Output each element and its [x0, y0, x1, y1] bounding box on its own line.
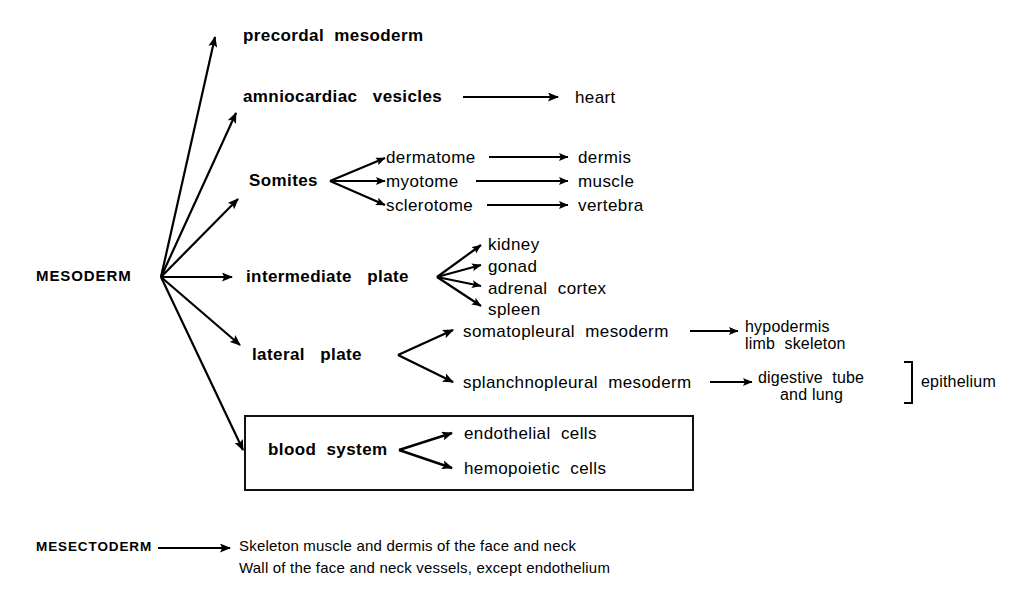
node-digestive-tube: digestive tube: [758, 369, 864, 387]
edge-lateral-somatopleural: [398, 330, 453, 355]
node-epithelium: epithelium: [921, 373, 996, 391]
node-hypodermis: hypodermis: [745, 318, 830, 336]
node-kidney: kidney: [488, 235, 540, 254]
node-lateral-plate: lateral plate: [252, 345, 362, 364]
node-mesectoderm: MESECTODERM: [36, 539, 152, 554]
edge-intermediate-gonad: [437, 265, 481, 277]
node-mesoderm: MESODERM: [36, 268, 132, 285]
edge-lateral-splanchnopleural: [398, 355, 453, 382]
edge-intermediate-adrenal: [437, 277, 481, 286]
edge-somites-dermatome: [330, 158, 385, 181]
node-somatopleural-mesoderm: somatopleural mesoderm: [463, 322, 669, 341]
mesectoderm-line-2: Wall of the face and neck vessels, excep…: [239, 560, 610, 577]
edge-mesoderm-lateral: [161, 277, 240, 345]
node-dermis: dermis: [578, 148, 631, 167]
somites-fan: [330, 158, 385, 205]
edge-mesoderm-amniocardiac: [161, 113, 236, 277]
node-muscle: muscle: [578, 172, 634, 191]
diagram-canvas: MESODERM MESECTODERM precordal mesoderm …: [0, 0, 1019, 614]
node-vertebra: vertebra: [578, 196, 644, 215]
node-adrenal-cortex: adrenal cortex: [488, 279, 606, 298]
edge-mesoderm-precordal: [161, 37, 215, 277]
node-precordal-mesoderm: precordal mesoderm: [243, 26, 424, 45]
node-heart: heart: [575, 88, 616, 107]
edge-somites-sclerotome: [330, 181, 385, 205]
node-splanchnopleural-mesoderm: splanchnopleural mesoderm: [463, 373, 692, 392]
node-sclerotome: sclerotome: [386, 196, 473, 215]
node-amniocardiac-vesicles: amniocardiac vesicles: [243, 87, 442, 106]
somite-target-edges: [476, 157, 568, 205]
node-somites: Somites: [249, 171, 318, 190]
epithelium-bracket: [904, 362, 912, 403]
node-myotome: myotome: [386, 172, 459, 191]
node-hemopoietic-cells: hemopoietic cells: [464, 459, 606, 478]
mesectoderm-line-1: Skeleton muscle and dermis of the face a…: [239, 538, 576, 555]
mesoderm-fan: [161, 37, 243, 450]
node-limb-skeleton: limb skeleton: [745, 335, 846, 353]
node-intermediate-plate: intermediate plate: [246, 267, 409, 286]
node-and-lung: and lung: [780, 386, 843, 404]
edge-mesoderm-blood: [161, 277, 243, 450]
edge-mesoderm-somites: [161, 199, 238, 277]
node-endothelial-cells: endothelial cells: [464, 424, 597, 443]
edge-intermediate-kidney: [437, 245, 481, 277]
node-gonad: gonad: [488, 257, 537, 276]
lateral-target-edges: [690, 331, 752, 382]
node-dermatome: dermatome: [386, 148, 476, 167]
lateral-fan: [398, 330, 453, 382]
node-spleen: spleen: [488, 300, 541, 319]
intermediate-fan: [437, 245, 481, 306]
edge-intermediate-spleen: [437, 277, 481, 306]
node-blood-system: blood system: [268, 440, 388, 459]
